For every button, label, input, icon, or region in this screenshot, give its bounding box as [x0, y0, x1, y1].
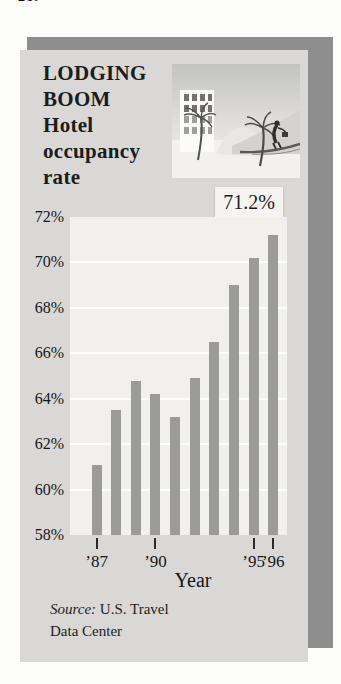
title-line-1: LODGING [43, 60, 147, 86]
callout-label: 71.2% [223, 191, 275, 214]
bar-’96 [268, 235, 278, 535]
source-line-1: Source: U.S. Travel [50, 598, 169, 620]
bar-’93 [209, 342, 219, 535]
bar-’92 [190, 378, 200, 535]
y-axis-label-58: 58% [22, 525, 64, 545]
y-axis-label-70: 70% [22, 252, 64, 272]
bar-’87 [92, 465, 102, 535]
x-tick-’90 [154, 538, 156, 549]
title-line-5: rate [43, 164, 147, 190]
beach-hotel-illustration [172, 64, 300, 178]
x-tick-’95 [253, 538, 255, 549]
y-axis-label-60: 60% [22, 480, 64, 500]
x-axis-label-’96: ’96 [251, 552, 295, 572]
plot-area [70, 217, 287, 535]
y-axis-label-64: 64% [22, 389, 64, 409]
x-axis-label-’87: ’87 [75, 552, 119, 572]
x-tick-’96 [272, 538, 274, 549]
y-axis-label-72: 72% [22, 207, 64, 227]
source-note: Source: U.S. Travel Data Center [50, 598, 169, 642]
bar-’94 [229, 285, 239, 535]
bar-’90 [150, 394, 160, 535]
source-prefix: Source: [50, 601, 96, 617]
y-axis-label-68: 68% [22, 298, 64, 318]
source-rest: U.S. Travel [96, 601, 169, 617]
title-line-2: BOOM [43, 86, 147, 112]
bar-’91 [170, 417, 180, 535]
figure-card: LODGING BOOM Hotel occupancy rate [20, 50, 308, 662]
bar-’89 [131, 381, 141, 535]
chart-title: LODGING BOOM Hotel occupancy rate [43, 60, 147, 190]
bar-’95 [249, 258, 259, 535]
source-line-2: Data Center [50, 620, 169, 642]
y-axis-label-62: 62% [22, 434, 64, 454]
value-callout: 71.2% [215, 187, 283, 217]
title-line-3: Hotel [43, 112, 147, 138]
title-line-4: occupancy [43, 138, 147, 164]
bar-’88 [111, 410, 121, 535]
y-axis-label-66: 66% [22, 343, 64, 363]
hotel-building [180, 90, 214, 152]
x-axis-title: Year [163, 569, 223, 592]
exercise-number: 10. [17, 0, 38, 6]
scanned-textbook-figure: { "page": { "exercise_number": "10." }, … [0, 0, 341, 684]
x-axis-label-’90: ’90 [133, 552, 177, 572]
x-tick-’87 [96, 538, 98, 549]
